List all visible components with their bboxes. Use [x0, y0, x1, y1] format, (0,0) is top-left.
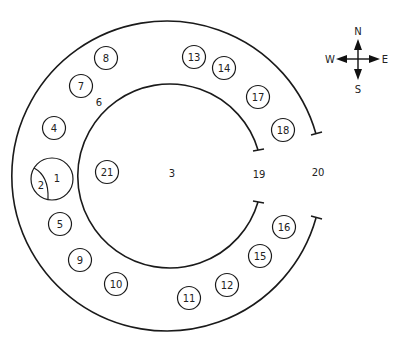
numbered-circle-16: 16	[273, 216, 296, 239]
circle-label: 8	[103, 53, 109, 64]
numbered-circle-10: 10	[105, 273, 128, 296]
compass-rose: N S W E	[325, 26, 388, 95]
numbered-circle-14: 14	[213, 57, 236, 80]
compass-south-label: S	[355, 84, 361, 95]
circle-label: 5	[57, 219, 63, 230]
inner-wall-end-cap-bottom	[253, 201, 264, 203]
circle-label: 16	[278, 222, 291, 233]
circle-label: 14	[218, 63, 231, 74]
outer-wall-end-cap-top	[311, 132, 322, 135]
ring-diagram: 1 2 8131471741821516915101211 631920 N S…	[0, 0, 407, 349]
inner-wall-end-cap-top	[253, 149, 264, 151]
numbered-circle-15: 15	[249, 245, 272, 268]
area-label-19: 19	[253, 169, 266, 180]
circle-label: 18	[277, 125, 290, 136]
numbered-circle-9: 9	[69, 249, 92, 272]
circle-label: 21	[101, 167, 114, 178]
circle-label: 9	[77, 255, 83, 266]
numbered-circle-7: 7	[70, 75, 93, 98]
numbered-circle-5: 5	[49, 213, 72, 236]
west-arrow-icon	[336, 55, 347, 63]
compass-east-label: E	[382, 54, 388, 65]
circle-label-2: 2	[38, 180, 44, 191]
circle-label: 17	[252, 92, 265, 103]
circle-label: 4	[51, 123, 57, 134]
numbered-circle-17: 17	[247, 86, 270, 109]
split-circle-1-2: 1 2	[31, 158, 73, 200]
north-arrow-icon	[354, 39, 362, 50]
diagram-canvas: 1 2 8131471741821516915101211 631920 N S…	[0, 0, 407, 349]
numbered-circle-4: 4	[43, 117, 66, 140]
circle-label: 7	[78, 81, 84, 92]
numbered-circle-11: 11	[178, 287, 201, 310]
area-label-6: 6	[96, 97, 102, 108]
circle-label: 13	[188, 52, 201, 63]
numbered-circle-21: 21	[96, 161, 119, 184]
south-arrow-icon	[354, 69, 362, 80]
area-label-20: 20	[312, 167, 325, 178]
compass-north-label: N	[354, 26, 361, 37]
numbered-circle-8: 8	[95, 47, 118, 70]
compass-west-label: W	[325, 54, 335, 65]
east-arrow-icon	[369, 55, 380, 63]
numbered-circle-13: 13	[183, 46, 206, 69]
area-label-3: 3	[169, 168, 175, 179]
circle-label: 15	[254, 251, 267, 262]
numbered-circle-18: 18	[272, 119, 295, 142]
numbered-circle-12: 12	[216, 274, 239, 297]
circle-label: 10	[110, 279, 123, 290]
circle-label: 11	[183, 293, 196, 304]
circle-label-1: 1	[54, 173, 60, 184]
circle-label: 12	[221, 280, 234, 291]
